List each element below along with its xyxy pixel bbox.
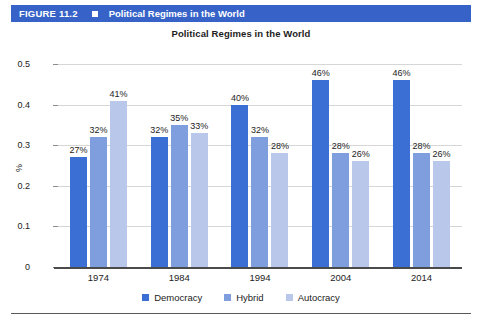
bar-hybrid-1994[interactable]: 32% [251, 64, 268, 267]
bar-rect[interactable] [312, 80, 329, 267]
bar-group-bars: 32%35%33% [139, 64, 220, 267]
bar-value-label: 32% [251, 125, 269, 135]
bar-value-label: 35% [170, 113, 188, 123]
legend-item-autocracy[interactable]: Autocracy [286, 292, 340, 303]
legend-swatch-icon [286, 294, 293, 301]
bar-group-1984: 32%35%33%1984 [139, 64, 220, 267]
x-axis-tick-label-2014: 2014 [381, 272, 462, 283]
bar-value-label: 46% [393, 68, 411, 78]
bar-autocracy-1984[interactable]: 33% [191, 64, 208, 267]
legend-item-hybrid[interactable]: Hybrid [224, 292, 263, 303]
bar-value-label: 28% [413, 141, 431, 151]
bar-rect[interactable] [251, 137, 268, 267]
x-axis-line [54, 267, 462, 269]
bar-autocracy-1994[interactable]: 28% [271, 64, 288, 267]
bottom-divider [11, 313, 471, 314]
x-axis-tick-label-2004: 2004 [300, 272, 381, 283]
y-axis-tick-label: 0 [0, 262, 30, 272]
bar-democracy-1984[interactable]: 32% [151, 64, 168, 267]
bar-hybrid-2004[interactable]: 28% [332, 64, 349, 267]
bar-rect[interactable] [332, 153, 349, 267]
x-axis-tick-label-1984: 1984 [139, 272, 220, 283]
bar-value-label: 28% [271, 141, 289, 151]
bar-value-label: 41% [109, 89, 127, 99]
bar-value-label: 26% [352, 149, 370, 159]
y-axis-tick-label: 0.1 [0, 221, 30, 231]
bar-group-2004: 46%28%26%2004 [300, 64, 381, 267]
bar-value-label: 33% [190, 121, 208, 131]
x-axis-tick-label-1994: 1994 [220, 272, 301, 283]
bar-rect[interactable] [433, 161, 450, 267]
legend-swatch-icon [224, 294, 231, 301]
bar-autocracy-2014[interactable]: 26% [433, 64, 450, 267]
bar-rect[interactable] [191, 133, 208, 267]
square-icon [92, 11, 98, 17]
legend-label: Democracy [154, 292, 202, 303]
y-axis-tick-label: 0.2 [0, 181, 30, 191]
legend-label: Autocracy [298, 292, 340, 303]
bar-hybrid-2014[interactable]: 28% [413, 64, 430, 267]
x-axis-tick-label-1974: 1974 [58, 272, 139, 283]
bar-rect[interactable] [393, 80, 410, 267]
bar-value-label: 32% [150, 125, 168, 135]
bar-group-bars: 46%28%26% [300, 64, 381, 267]
bar-group-1974: 27%32%41%1974 [58, 64, 139, 267]
legend-label: Hybrid [236, 292, 263, 303]
bar-democracy-1974[interactable]: 27% [70, 64, 87, 267]
bar-group-bars: 40%32%28% [220, 64, 301, 267]
y-axis-tick-label: 0.3 [0, 140, 30, 150]
bar-value-label: 32% [89, 125, 107, 135]
bar-rect[interactable] [413, 153, 430, 267]
bar-group-bars: 27%32%41% [58, 64, 139, 267]
bar-value-label: 28% [332, 141, 350, 151]
legend-swatch-icon [142, 294, 149, 301]
bar-rect[interactable] [70, 157, 87, 267]
plot-area: 00.10.20.30.40.527%32%41%197432%35%33%19… [58, 64, 462, 268]
bar-autocracy-2004[interactable]: 26% [352, 64, 369, 267]
bar-value-label: 27% [69, 145, 87, 155]
bar-democracy-1994[interactable]: 40% [231, 64, 248, 267]
bar-group-1994: 40%32%28%1994 [220, 64, 301, 267]
bar-hybrid-1974[interactable]: 32% [90, 64, 107, 267]
figure-header-title: Political Regimes in the World [109, 8, 245, 19]
bar-democracy-2014[interactable]: 46% [393, 64, 410, 267]
bar-democracy-2004[interactable]: 46% [312, 64, 329, 267]
figure-header-bar: FIGURE 11.2 Political Regimes in the Wor… [11, 5, 471, 22]
bar-hybrid-1984[interactable]: 35% [171, 64, 188, 267]
bar-rect[interactable] [110, 101, 127, 267]
bar-rect[interactable] [90, 137, 107, 267]
bar-group-2014: 46%28%26%2014 [381, 64, 462, 267]
bar-rect[interactable] [231, 105, 248, 267]
bar-rect[interactable] [151, 137, 168, 267]
bar-autocracy-1974[interactable]: 41% [110, 64, 127, 267]
bar-group-bars: 46%28%26% [381, 64, 462, 267]
legend-item-democracy[interactable]: Democracy [142, 292, 202, 303]
bar-rect[interactable] [271, 153, 288, 267]
y-axis-tick-label: 0.4 [0, 100, 30, 110]
bar-value-label: 40% [231, 93, 249, 103]
bar-rect[interactable] [171, 125, 188, 267]
figure-number: FIGURE 11.2 [19, 8, 78, 19]
bar-value-label: 26% [433, 149, 451, 159]
bar-rect[interactable] [352, 161, 369, 267]
y-axis-title: % [14, 164, 24, 172]
chart-legend: DemocracyHybridAutocracy [0, 292, 482, 303]
y-axis-tick-label: 0.5 [0, 59, 30, 69]
bar-value-label: 46% [312, 68, 330, 78]
chart-title: Political Regimes in the World [0, 28, 482, 39]
